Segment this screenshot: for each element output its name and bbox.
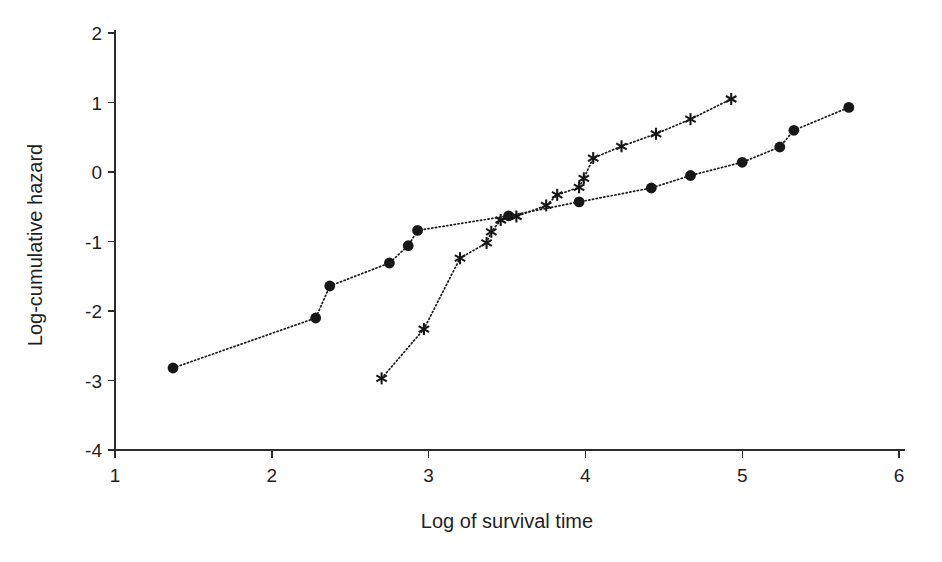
y-tick-label: -3 xyxy=(85,371,102,392)
y-axis-title: Log-cumulative hazard xyxy=(24,144,46,346)
data-point-circle xyxy=(646,183,657,194)
series-line-group-2 xyxy=(382,99,732,378)
x-tick-label: 4 xyxy=(580,465,591,486)
data-point-asterisk xyxy=(579,172,589,184)
data-point-circle xyxy=(843,102,854,113)
data-point-asterisk xyxy=(455,252,465,264)
data-point-asterisk xyxy=(481,237,491,249)
data-point-circle xyxy=(168,363,179,374)
x-tick-label: 2 xyxy=(267,465,278,486)
data-point-circle xyxy=(789,125,800,136)
y-tick-label: -1 xyxy=(85,232,102,253)
data-point-circle xyxy=(774,142,785,153)
x-tick-label: 6 xyxy=(894,465,905,486)
data-point-asterisk xyxy=(588,152,598,164)
y-tick-label: -4 xyxy=(85,440,102,461)
y-tick-label: 1 xyxy=(91,93,102,114)
data-point-asterisk xyxy=(574,181,584,193)
data-point-circle xyxy=(412,225,423,236)
data-point-circle xyxy=(574,197,585,208)
data-point-circle xyxy=(685,170,696,181)
x-tick-label: 5 xyxy=(737,465,748,486)
data-point-asterisk xyxy=(616,140,626,152)
y-tick-label: 0 xyxy=(91,162,102,183)
x-axis-title: Log of survival time xyxy=(421,510,593,532)
data-point-circle xyxy=(737,157,748,168)
data-point-circle xyxy=(310,313,321,324)
data-point-asterisk xyxy=(419,323,429,335)
data-point-asterisk xyxy=(685,113,695,125)
y-tick-label: -2 xyxy=(85,301,102,322)
series-group-1 xyxy=(168,102,855,373)
data-point-circle xyxy=(384,258,395,269)
data-point-asterisk xyxy=(651,128,661,140)
data-point-circle xyxy=(403,240,414,251)
axes: 210-1-2-3-4123456 xyxy=(85,23,905,486)
series-line-group-1 xyxy=(173,107,849,368)
x-tick-label: 3 xyxy=(423,465,434,486)
series-group-2 xyxy=(376,93,736,384)
data-point-asterisk xyxy=(726,93,736,105)
y-tick-label: 2 xyxy=(91,23,102,44)
data-point-asterisk xyxy=(486,226,496,238)
data-series xyxy=(168,93,855,384)
plot-canvas: 210-1-2-3-4123456 Log of survival time L… xyxy=(0,0,942,562)
x-tick-label: 1 xyxy=(110,465,121,486)
data-point-circle xyxy=(324,281,335,292)
chart-figure: 210-1-2-3-4123456 Log of survival time L… xyxy=(0,0,942,562)
